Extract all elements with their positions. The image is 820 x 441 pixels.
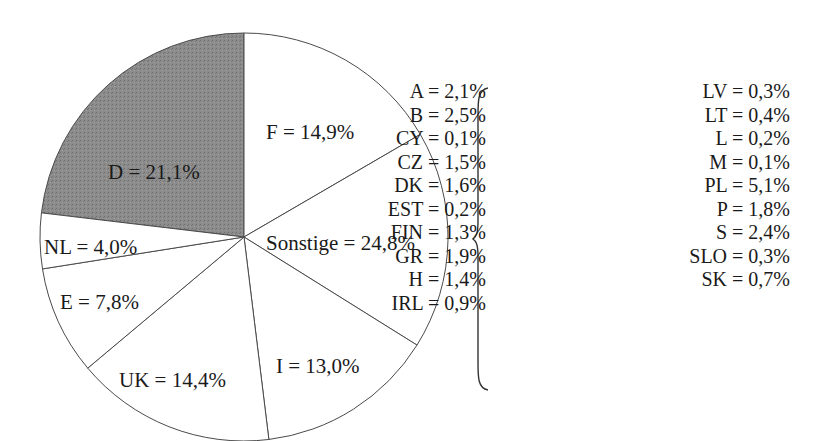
legend-item-sk: SK = 0,7% <box>689 268 790 292</box>
legend-item-b: B = 2,5% <box>388 104 486 128</box>
legend-item-irl: IRL = 0,9% <box>388 292 486 316</box>
slice-label-f: F = 14,9% <box>266 122 354 143</box>
legend-item-cz: CZ = 1,5% <box>388 151 486 175</box>
pie-slice-d <box>41 33 244 237</box>
legend-item-slo: SLO = 0,3% <box>689 245 790 269</box>
legend-item-pl: PL = 5,1% <box>689 174 790 198</box>
legend-item-l: L = 0,2% <box>689 127 790 151</box>
slice-label-d: D = 21,1% <box>108 162 200 183</box>
legend-item-fin: FIN = 1,3% <box>388 221 486 245</box>
legend-item-s: S = 2,4% <box>689 221 790 245</box>
legend-item-h: H = 1,4% <box>388 268 486 292</box>
legend-item-p: P = 1,8% <box>689 198 790 222</box>
legend-item-cy: CY = 0,1% <box>388 127 486 151</box>
legend-item-lt: LT = 0,4% <box>689 104 790 128</box>
slice-label-i: I = 13,0% <box>276 356 360 377</box>
legend-item-lv: LV = 0,3% <box>689 80 790 104</box>
legend-item-est: EST = 0,2% <box>388 198 486 222</box>
legend-column-1: A = 2,1%B = 2,5%CY = 0,1%CZ = 1,5%DK = 1… <box>388 80 486 315</box>
slice-label-e: E = 7,8% <box>60 292 139 313</box>
legend-item-m: M = 0,1% <box>689 151 790 175</box>
legend-item-gr: GR = 1,9% <box>388 245 486 269</box>
slice-label-nl: NL = 4,0% <box>44 237 137 258</box>
legend-item-a: A = 2,1% <box>388 80 486 104</box>
legend-item-dk: DK = 1,6% <box>388 174 486 198</box>
slice-label-uk: UK = 14,4% <box>119 370 226 391</box>
legend-column-2: LV = 0,3%LT = 0,4%L = 0,2%M = 0,1%PL = 5… <box>689 80 790 292</box>
